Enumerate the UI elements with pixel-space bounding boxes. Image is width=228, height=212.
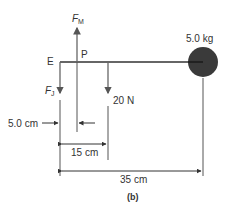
point-P-label: P (81, 49, 88, 60)
mass-label: 5.0 kg (186, 33, 213, 44)
weight-force-label: 20 N (113, 95, 134, 106)
forearm-free-body-diagram: FM P E FJ 20 N 5.0 kg 5.0 cm 15 cm 35 cm… (0, 0, 228, 212)
dim-15cm-label: 15 cm (71, 147, 98, 158)
point-E-label: E (47, 56, 54, 67)
joint-force-label: FJ (45, 85, 55, 97)
dim-35cm-label: 35 cm (120, 174, 147, 185)
figure-caption: (b) (127, 192, 139, 202)
dim-5cm-label: 5.0 cm (8, 118, 38, 129)
muscle-force-label: FM (72, 13, 84, 25)
